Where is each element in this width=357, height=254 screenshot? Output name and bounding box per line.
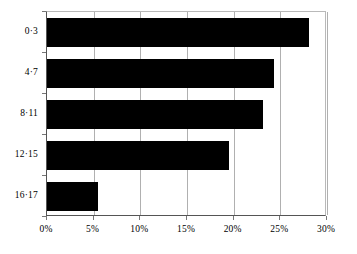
x-axis-tick-label: 30% [306,224,346,234]
y-axis-tick-label: 12·15 [15,149,38,159]
x-axis-tick [139,216,140,220]
y-axis-tick-label: 8·11 [20,108,38,118]
x-axis-tick-label: 5% [73,224,113,234]
x-axis-tick-label: 15% [166,224,206,234]
y-axis-tick-label: 4·7 [25,67,38,77]
bar [47,18,309,47]
y-axis-tick [42,11,46,12]
x-axis-tick-label: 25% [259,224,299,234]
y-axis-tick [42,175,46,176]
x-axis-tick [186,216,187,220]
plot-area [46,11,326,216]
y-axis-tick [42,93,46,94]
y-axis-tick-label: 16·17 [15,190,38,200]
bar [47,141,229,170]
gridline-30% [327,12,328,215]
y-axis-labels: 0·34·78·1112·1516·17 [0,0,42,254]
x-axis-tick-label: 20% [213,224,253,234]
x-axis-tick-label: 0% [26,224,66,234]
x-axis-tick [46,216,47,220]
bar [47,182,98,211]
x-axis-tick [279,216,280,220]
x-axis-tick [93,216,94,220]
bar [47,100,263,129]
y-axis-tick [42,134,46,135]
bar-chart-figure: 0·34·78·1112·1516·17 0%5%10%15%20%25%30% [0,0,357,254]
y-axis-tick-label: 0·3 [25,26,38,36]
bar [47,59,274,88]
x-axis-tick [326,216,327,220]
y-axis-tick [42,52,46,53]
x-axis-tick [233,216,234,220]
x-axis-tick-label: 10% [119,224,159,234]
